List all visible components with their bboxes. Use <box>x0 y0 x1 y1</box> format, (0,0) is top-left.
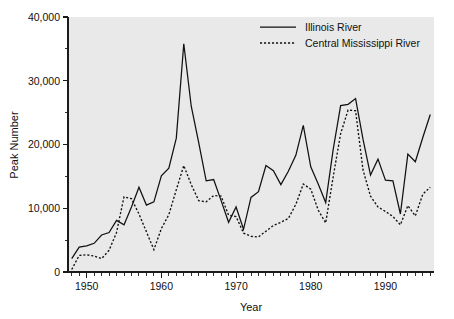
y-axis-tick-label: 40,000 <box>28 11 60 23</box>
plot-area-background <box>68 17 434 272</box>
peak-number-line-chart: 010,00020,00030,00040,000 19501960197019… <box>0 0 454 319</box>
x-axis-tick-label: 1980 <box>299 280 323 292</box>
x-axis-tick-label: 1950 <box>75 280 99 292</box>
x-axis-tick-label: 1960 <box>150 280 174 292</box>
y-axis-tick-label: 0 <box>54 266 60 278</box>
y-axis-tick-label: 10,000 <box>28 202 60 214</box>
x-axis-title: Year <box>240 301 263 313</box>
x-axis-tick-label: 1990 <box>374 280 398 292</box>
y-axis-title: Peak Number <box>8 111 20 179</box>
legend-label: Central Mississippi River <box>305 37 420 49</box>
chart-figure: 010,00020,00030,00040,000 19501960197019… <box>0 0 454 319</box>
x-axis-tick-label: 1970 <box>224 280 248 292</box>
y-axis-tick-label: 20,000 <box>28 138 60 150</box>
y-axis-tick-label: 30,000 <box>28 75 60 87</box>
legend-label: Illinois River <box>305 21 362 33</box>
